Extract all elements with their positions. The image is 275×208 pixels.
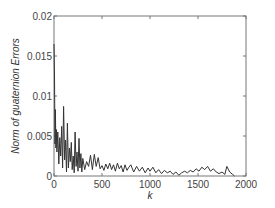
x-tick-label: 2000	[235, 179, 258, 190]
x-tick-label: 1500	[187, 179, 210, 190]
y-axis-label: Norm of guaternion Errors	[10, 38, 21, 154]
line-chart: 00.0050.010.0150.02 0500100015002000 k N…	[0, 0, 275, 208]
x-tick-label: 1000	[139, 179, 162, 190]
x-tick-label: 0	[51, 179, 57, 190]
y-tick-label: 0.01	[33, 91, 53, 102]
plot-area	[54, 16, 246, 176]
x-axis-label: k	[148, 190, 154, 201]
y-tick-label: 0.02	[33, 11, 53, 22]
y-tick-label: 0.005	[27, 131, 52, 142]
x-tick-label: 500	[94, 179, 111, 190]
y-tick-label: 0.015	[27, 51, 52, 62]
